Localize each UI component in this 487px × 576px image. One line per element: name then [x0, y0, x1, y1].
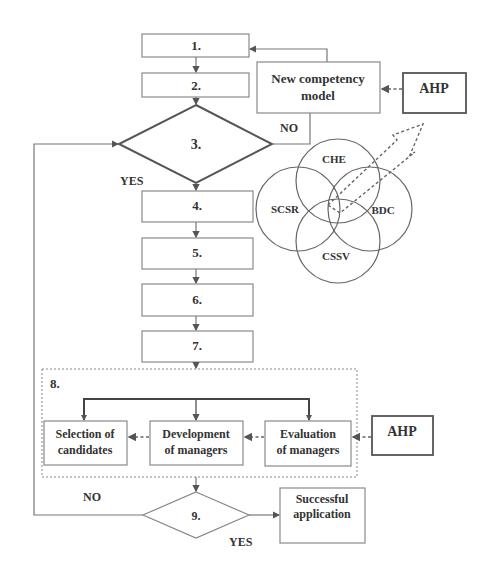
- success-line2: application: [293, 507, 351, 521]
- step-2-label: 2.: [191, 78, 201, 93]
- ahp-bottom-label: AHP: [387, 424, 417, 439]
- step-4-label: 4.: [192, 198, 202, 213]
- step-6-label: 6.: [192, 292, 202, 307]
- evaluation-line2: of managers: [277, 443, 340, 457]
- venn-label-che: CHE: [322, 153, 346, 165]
- decision-3-label: 3.: [191, 137, 202, 152]
- development-line1: Development: [162, 427, 229, 441]
- selection-line1: Selection of: [56, 427, 116, 441]
- success-line1: Successful: [296, 492, 349, 506]
- development-of-managers-box: Development of managers: [150, 421, 243, 465]
- ahp-top-label: AHP: [419, 81, 449, 96]
- venn-label-cssv: CSSV: [322, 250, 350, 262]
- decision-9-no: NO: [83, 490, 101, 504]
- new-model-line1: New competency: [271, 71, 365, 86]
- venn-diagram: CHE SCSR BDC CSSV: [256, 139, 412, 283]
- successful-application-box: Successful application: [280, 488, 365, 543]
- evaluation-line1: Evaluation: [280, 427, 336, 441]
- selection-of-candidates-box: Selection of candidates: [44, 421, 127, 465]
- new-competency-model-box: New competency model: [257, 62, 380, 113]
- new-model-line2: model: [301, 88, 335, 103]
- decision-3: 3.: [119, 105, 272, 183]
- step-8-group: 8. Selection of candidates Development o…: [42, 369, 357, 477]
- step-1-label: 1.: [191, 38, 201, 53]
- step-5-label: 5.: [192, 245, 202, 260]
- step-7-box: 7.: [142, 331, 253, 362]
- development-line2: of managers: [165, 443, 228, 457]
- evaluation-of-managers-box: Evaluation of managers: [265, 421, 351, 466]
- step-2-box: 2.: [142, 73, 249, 97]
- step-8-label: 8.: [50, 376, 60, 391]
- step-4-box: 4.: [142, 191, 253, 222]
- decision-9-yes: YES: [229, 535, 253, 549]
- decision-3-yes: YES: [120, 174, 144, 188]
- decision-3-no: NO: [280, 121, 298, 135]
- ahp-top-box: AHP: [403, 73, 466, 113]
- step-1-box: 1.: [142, 34, 249, 57]
- step-7-label: 7.: [192, 338, 202, 353]
- ahp-bottom-box: AHP: [372, 416, 433, 455]
- selection-line2: candidates: [58, 443, 113, 457]
- venn-label-bdc: BDC: [371, 204, 394, 216]
- step-5-box: 5.: [142, 238, 253, 269]
- step-6-box: 6.: [142, 284, 253, 316]
- decision-9: 9.: [143, 492, 249, 538]
- feedback-arrow-to-1: [250, 49, 327, 62]
- venn-label-scsr: SCSR: [271, 203, 300, 215]
- decision-9-label: 9.: [192, 509, 201, 523]
- flowchart-diagram: 1. 2. 3. YES NO New competency model AHP…: [0, 0, 487, 576]
